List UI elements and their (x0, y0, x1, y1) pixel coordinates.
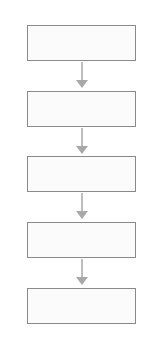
down-arrow-icon (73, 62, 91, 91)
flow-box-5 (27, 288, 136, 324)
flow-box-4 (27, 222, 136, 258)
down-arrow-icon (73, 193, 91, 222)
flow-box-3 (27, 156, 136, 192)
flow-box-2 (27, 91, 136, 127)
flow-box-1 (27, 25, 136, 61)
down-arrow-icon (73, 259, 91, 288)
down-arrow-icon (73, 128, 91, 157)
